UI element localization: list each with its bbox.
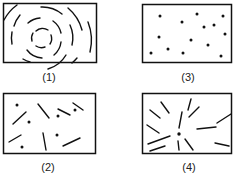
panel-3-frame [143, 5, 232, 63]
figure-diagram [0, 0, 234, 178]
panel-2 [4, 94, 96, 154]
panel-2-label: (2) [33, 161, 63, 173]
panel-2-frame [4, 94, 96, 154]
panel-3-label: (3) [173, 71, 203, 83]
panel-4-label: (4) [174, 161, 204, 173]
panel-3 [143, 5, 232, 63]
panel-4 [143, 94, 232, 154]
panel-4-frame [143, 94, 232, 154]
panel-1 [4, 4, 97, 70]
panel-1-label: (1) [34, 71, 64, 83]
panel-1-frame [4, 4, 97, 63]
